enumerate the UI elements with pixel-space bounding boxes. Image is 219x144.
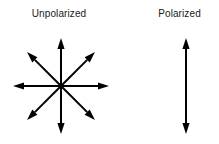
arrowhead-icon bbox=[57, 123, 64, 134]
arrowhead-icon bbox=[182, 38, 189, 49]
polarization-diagram: Unpolarized Polarized bbox=[0, 0, 219, 144]
arrowhead-icon bbox=[13, 82, 24, 89]
arrow-shaft bbox=[61, 86, 87, 112]
diagram-canvas bbox=[0, 0, 219, 144]
unpolarized-label: Unpolarized bbox=[0, 8, 118, 20]
arrowhead-icon bbox=[57, 38, 64, 49]
arrowhead-icon bbox=[98, 82, 109, 89]
arrow-shaft bbox=[35, 60, 61, 86]
unpolarized-starburst bbox=[13, 38, 109, 134]
arrowhead-icon bbox=[182, 123, 189, 134]
arrow-shaft bbox=[35, 86, 61, 112]
polarized-label: Polarized bbox=[140, 8, 219, 20]
polarized-arrow bbox=[182, 38, 189, 134]
arrow-shaft bbox=[61, 60, 87, 86]
